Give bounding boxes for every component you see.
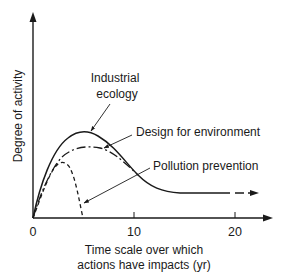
y-axis-label: Degree of activity	[11, 70, 25, 163]
x-axis-label-line2: actions have impacts (yr)	[77, 258, 210, 272]
x-tick-label-10: 10	[127, 225, 141, 239]
y-axis-arrow-icon	[30, 12, 37, 22]
annotation-design-for-environment: Design for environment	[136, 125, 261, 139]
continuation-arrow-icon	[250, 190, 259, 196]
x-axis-arrow-icon	[263, 215, 273, 222]
x-axis-label-line1: Time scale over which	[85, 243, 203, 257]
annotation-industrial-ecology-line1: Industrial	[91, 71, 140, 85]
x-tick-label-0: 0	[30, 225, 37, 239]
x-tick-label-20: 20	[228, 225, 242, 239]
y-axis	[30, 12, 37, 218]
leader-arrow-industrial-ecology	[91, 104, 110, 131]
series-industrial-ecology	[33, 132, 230, 218]
leader-arrow-pollution-prevention	[84, 168, 150, 203]
chart: 0 10 20 Degree of activity Time scale ov…	[0, 0, 285, 278]
x-axis	[33, 212, 273, 222]
leader-arrow-design-for-environment	[104, 135, 132, 148]
annotation-pollution-prevention: Pollution prevention	[153, 159, 258, 173]
annotation-industrial-ecology-line2: ecology	[96, 87, 137, 101]
